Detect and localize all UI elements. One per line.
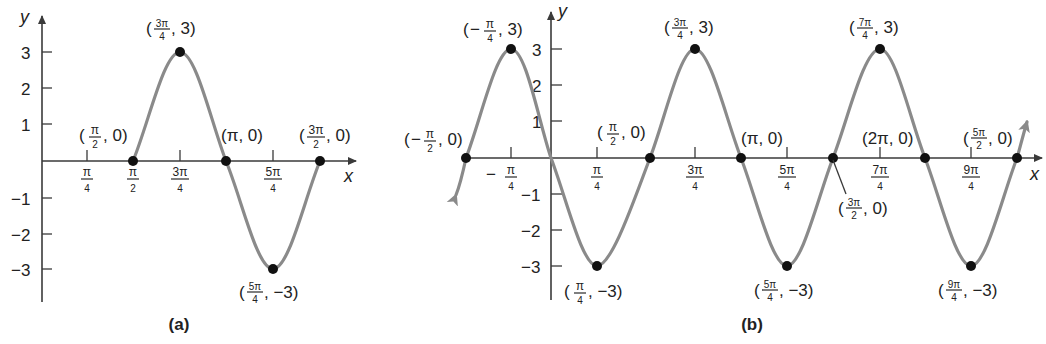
svg-text:, 0): , 0) bbox=[988, 129, 1013, 148]
svg-text:4: 4 bbox=[877, 181, 883, 192]
svg-text:, −3): , −3) bbox=[588, 282, 623, 301]
svg-text:4: 4 bbox=[252, 294, 258, 305]
svg-text:(: ( bbox=[564, 282, 570, 301]
svg-text:, 0): , 0) bbox=[103, 126, 128, 145]
x-axis-label-b: x bbox=[1029, 164, 1040, 184]
svg-text:−: − bbox=[470, 20, 480, 39]
svg-text:3: 3 bbox=[21, 44, 30, 63]
svg-text:(π, 0): (π, 0) bbox=[741, 129, 783, 148]
svg-text:2: 2 bbox=[976, 140, 982, 151]
svg-text:4: 4 bbox=[767, 292, 773, 303]
svg-text:5π: 5π bbox=[973, 127, 986, 138]
point-label-a-pi2: ( π 2 , 0) bbox=[79, 123, 128, 150]
svg-text:π: π bbox=[486, 17, 494, 31]
graph-b: y x 3 2 1 −1 −2 −3 − π bbox=[404, 1, 1042, 334]
point-label-b-pi: (π, 0) bbox=[741, 129, 783, 148]
svg-text:(: ( bbox=[404, 130, 410, 149]
svg-text:−: − bbox=[486, 165, 496, 184]
point-label-b-3pi4: ( 3π 4 , 3) bbox=[664, 17, 714, 41]
svg-text:π: π bbox=[507, 163, 515, 177]
y-ticks-a: 3 2 1 −1 −2 −3 bbox=[11, 44, 52, 280]
svg-text:−: − bbox=[411, 130, 421, 149]
x-axis-label-a: x bbox=[343, 166, 354, 186]
svg-text:4: 4 bbox=[508, 181, 514, 192]
svg-text:(: ( bbox=[239, 283, 245, 302]
svg-text:−3: −3 bbox=[11, 261, 30, 280]
svg-text:2: 2 bbox=[851, 210, 857, 221]
point-label-b-7pi4: ( 7π 4 , 3) bbox=[849, 17, 899, 41]
svg-text:π: π bbox=[576, 279, 584, 293]
svg-text:−1: −1 bbox=[521, 186, 540, 205]
svg-text:1: 1 bbox=[21, 116, 30, 135]
svg-text:2: 2 bbox=[610, 136, 616, 147]
svg-text:(: ( bbox=[146, 19, 152, 38]
svg-text:−2: −2 bbox=[521, 222, 540, 241]
svg-text:(: ( bbox=[597, 123, 603, 142]
svg-text:3π: 3π bbox=[688, 163, 703, 177]
svg-text:, 0): , 0) bbox=[326, 126, 351, 145]
svg-text:4: 4 bbox=[159, 31, 165, 42]
svg-text:−2: −2 bbox=[11, 226, 30, 245]
svg-text:, 3): , 3) bbox=[689, 18, 714, 37]
svg-text:2: 2 bbox=[92, 139, 98, 150]
svg-text:5π: 5π bbox=[764, 279, 777, 290]
caption-b: (b) bbox=[741, 315, 763, 334]
svg-text:3π: 3π bbox=[156, 18, 169, 29]
svg-text:4: 4 bbox=[177, 183, 183, 194]
svg-text:, −3): , −3) bbox=[779, 281, 814, 300]
svg-text:(: ( bbox=[664, 18, 670, 37]
svg-text:2: 2 bbox=[313, 139, 319, 150]
svg-text:4: 4 bbox=[951, 292, 957, 303]
svg-text:4: 4 bbox=[594, 181, 600, 192]
svg-text:4: 4 bbox=[968, 181, 974, 192]
svg-text:, 0): , 0) bbox=[438, 130, 463, 149]
svg-text:(: ( bbox=[463, 20, 469, 39]
svg-text:, −3): , −3) bbox=[264, 283, 299, 302]
y-axis-label-a: y bbox=[18, 7, 30, 27]
svg-text:9π: 9π bbox=[964, 163, 979, 177]
svg-text:−3: −3 bbox=[521, 258, 540, 277]
point-label-b-pi4: ( π 4 , −3) bbox=[564, 279, 623, 306]
svg-text:(π, 0): (π, 0) bbox=[221, 126, 263, 145]
svg-text:(: ( bbox=[838, 199, 844, 218]
svg-text:, 3): , 3) bbox=[874, 18, 899, 37]
svg-text:π: π bbox=[129, 165, 137, 179]
svg-text:, 0): , 0) bbox=[621, 123, 646, 142]
svg-text:, 3): , 3) bbox=[498, 20, 523, 39]
svg-text:, −3): , −3) bbox=[963, 281, 998, 300]
svg-text:π: π bbox=[91, 123, 99, 137]
svg-text:(: ( bbox=[849, 18, 855, 37]
svg-text:(: ( bbox=[963, 129, 969, 148]
svg-text:2: 2 bbox=[427, 143, 433, 154]
y-axis-label-b: y bbox=[556, 1, 568, 21]
svg-text:π: π bbox=[593, 163, 601, 177]
graph-a: y x 3 2 1 −1 −2 −3 π 4 π bbox=[11, 7, 356, 334]
point-label-b-pi2: ( π 2 , 0) bbox=[597, 120, 646, 147]
svg-text:5π: 5π bbox=[780, 163, 795, 177]
point-label-b-neg-pi4: ( − π 4 , 3) bbox=[463, 17, 523, 44]
svg-text:4: 4 bbox=[692, 181, 698, 192]
svg-text:(: ( bbox=[299, 126, 305, 145]
point-label-b-5pi4: ( 5π 4 , −3) bbox=[754, 279, 814, 303]
svg-text:3π: 3π bbox=[309, 123, 324, 137]
x-ticks-a: π 4 π 2 3π 4 5π 4 bbox=[81, 150, 282, 194]
caption-a: (a) bbox=[169, 315, 190, 334]
point-label-a-3pi4: ( 3π 4 , 3) bbox=[146, 18, 196, 42]
svg-text:(: ( bbox=[938, 281, 944, 300]
svg-text:3π: 3π bbox=[674, 17, 687, 28]
point-label-b-neg-pi2: ( − π 2 , 0) bbox=[404, 127, 463, 154]
svg-text:π: π bbox=[426, 127, 434, 141]
point-label-a-5pi4: ( 5π 4 , −3) bbox=[239, 281, 299, 305]
point-label-b-2pi: (2π, 0) bbox=[862, 129, 913, 148]
svg-text:4: 4 bbox=[677, 30, 683, 41]
svg-text:(: ( bbox=[754, 281, 760, 300]
svg-text:π: π bbox=[609, 120, 617, 134]
svg-text:4: 4 bbox=[577, 295, 583, 306]
svg-text:3π: 3π bbox=[173, 165, 188, 179]
svg-text:7π: 7π bbox=[873, 163, 888, 177]
svg-text:7π: 7π bbox=[859, 17, 872, 28]
svg-text:2: 2 bbox=[130, 183, 136, 194]
svg-text:4: 4 bbox=[862, 30, 868, 41]
point-label-b-9pi4: ( 9π 4 , −3) bbox=[938, 279, 998, 303]
svg-text:4: 4 bbox=[487, 33, 493, 44]
